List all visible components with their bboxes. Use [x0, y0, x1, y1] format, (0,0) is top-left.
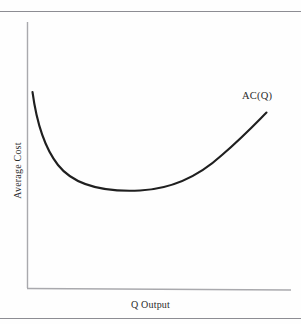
x-axis-label: Q Output	[0, 299, 301, 310]
x-axis-line	[27, 289, 291, 291]
figure-container: AC(Q) Average Cost Q Output	[0, 0, 301, 324]
bottom-horizontal-rule	[0, 318, 301, 319]
y-axis-label: Average Cost	[12, 121, 23, 221]
average-cost-curve-path	[33, 92, 267, 191]
plot-area	[0, 0, 301, 324]
curve-label-ac-q: AC(Q)	[242, 90, 272, 101]
